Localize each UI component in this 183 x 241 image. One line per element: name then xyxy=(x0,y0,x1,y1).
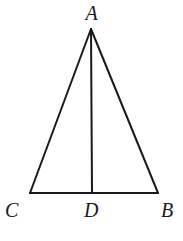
vertex-label-b: B xyxy=(161,200,173,220)
geometry-figure-canvas: A C D B xyxy=(0,0,183,241)
vertex-label-d: D xyxy=(84,200,98,220)
segment-cevian-AD xyxy=(91,29,92,193)
vertex-label-a: A xyxy=(0,3,183,23)
segment-side-AB xyxy=(91,29,158,193)
vertex-label-c: C xyxy=(5,200,18,220)
segment-side-AC xyxy=(30,29,91,193)
